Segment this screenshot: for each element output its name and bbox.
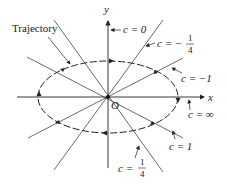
- label-c-inf: c = ∞: [188, 108, 214, 120]
- arrow-icon: [109, 59, 114, 64]
- arrow-icon: [37, 91, 42, 96]
- frac-num: 1: [188, 33, 193, 43]
- label-c-neg-one: c = −1: [181, 72, 212, 84]
- label-c-neg-quarter: c = −: [157, 37, 182, 49]
- origin-point: [106, 95, 110, 99]
- pointer-c-neg-quarter: [146, 43, 155, 46]
- y-axis-label: y: [103, 3, 109, 15]
- x-axis-label: x: [207, 91, 213, 103]
- arrow-icon: [60, 68, 65, 72]
- trajectory-pointer: [48, 37, 70, 64]
- label-c-0: c = 0: [123, 23, 147, 35]
- arrow-icon: [176, 98, 181, 103]
- trajectory-label: Trajectory: [12, 22, 58, 34]
- trajectory-diagram: y x O Trajectory c = 0 c = − 1 4 c = −1 …: [0, 0, 227, 189]
- pointer-c1: [173, 131, 175, 139]
- frac-den: 4: [140, 169, 145, 179]
- origin-label: O: [111, 99, 119, 111]
- label-c-1: c = 1: [169, 140, 192, 152]
- frac-den: 4: [188, 45, 193, 55]
- label-c-quarter: c =: [118, 162, 133, 174]
- arrow-icon: [102, 131, 107, 136]
- pointer-c-quarter: [135, 146, 139, 158]
- frac-num: 1: [140, 157, 145, 167]
- isocline-c-one: [27, 57, 183, 138]
